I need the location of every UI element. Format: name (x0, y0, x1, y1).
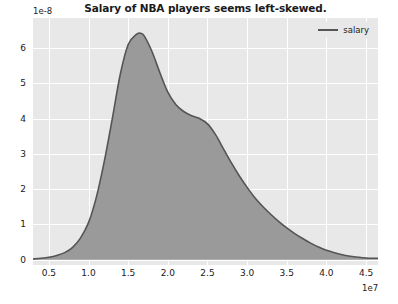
x-tick-label: 4.0 (319, 268, 333, 278)
x-tick-label: 3.5 (280, 268, 294, 278)
y-tick-label: 1 (20, 219, 26, 229)
legend-label-salary: salary (343, 25, 369, 35)
x-tick-label: 2.5 (200, 268, 214, 278)
y-tick-label: 4 (20, 114, 26, 124)
chart-figure: Salary of NBA players seems left-skewed.… (0, 0, 398, 304)
y-tick-label: 0 (20, 255, 26, 265)
x-axis-offset-label: 1e7 (362, 283, 378, 293)
x-tick-label: 0.5 (42, 268, 56, 278)
x-tick-label: 1.0 (81, 268, 95, 278)
y-axis-offset-label: 1e-8 (33, 6, 52, 16)
x-tick-label: 1.5 (121, 268, 135, 278)
x-tick-label: 3.0 (240, 268, 254, 278)
y-tick-label: 2 (20, 184, 26, 194)
density-curve (33, 18, 378, 265)
legend-line-swatch-salary (318, 29, 338, 31)
plot-area: salary (33, 18, 378, 265)
x-tick-label: 4.5 (359, 268, 373, 278)
y-tick-label: 5 (20, 78, 26, 88)
x-tick-label: 2.0 (161, 268, 175, 278)
chart-title: Salary of NBA players seems left-skewed. (33, 2, 378, 14)
density-curve-fill (33, 33, 378, 260)
y-tick-label: 6 (20, 43, 26, 53)
y-tick-label: 3 (20, 149, 26, 159)
legend: salary (314, 22, 374, 38)
